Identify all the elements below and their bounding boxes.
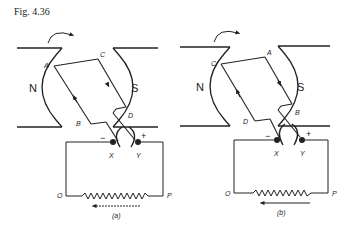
panel-b-labels: N S C A B D − + X Y O P (b) [196, 49, 337, 217]
pole-label-s: S [131, 82, 138, 94]
terminal-label-p: P [332, 190, 337, 197]
coil-label: D [128, 112, 133, 119]
north-pole [17, 48, 62, 127]
panel-caption: (b) [277, 209, 286, 217]
resistor [82, 193, 148, 199]
rotation-arrow-icon [48, 33, 72, 43]
terminal-label-p: P [167, 192, 172, 199]
panel-caption: (a) [112, 212, 121, 220]
pole-label-n: N [196, 81, 204, 93]
coil [54, 59, 135, 141]
negative-sign: − [100, 133, 105, 143]
pole-label-s: S [297, 81, 304, 93]
pole-label-n: N [29, 82, 37, 94]
external-circuit [234, 140, 328, 203]
brush-label-y: Y [136, 152, 142, 159]
positive-sign: + [141, 131, 146, 141]
north-pole [180, 47, 230, 126]
external-circuit [66, 142, 163, 206]
coil-label: A [43, 62, 49, 69]
brush-y [299, 137, 305, 143]
coil-label: C [100, 51, 106, 58]
positive-sign: + [306, 129, 311, 139]
commutator-right [129, 127, 135, 147]
brush-x [110, 139, 116, 145]
coil-label: B [295, 109, 300, 116]
coil-label: B [76, 120, 81, 127]
brush-label-y: Y [300, 150, 306, 157]
brush-x [274, 137, 280, 143]
rotation-arrow-icon [214, 31, 238, 42]
commutator-left [279, 124, 285, 145]
brush-label-x: X [273, 150, 279, 157]
coil-label: A [266, 49, 272, 56]
brush-label-x: X [108, 152, 114, 159]
commutator-right [292, 124, 298, 145]
negative-sign: − [265, 131, 270, 141]
coil [221, 57, 300, 139]
resistor [253, 190, 311, 196]
terminal-label-o: O [225, 190, 231, 197]
commutator-left [116, 127, 122, 147]
terminal-label-o: O [57, 192, 63, 199]
panel-a-labels: N S A C D B − + X Y O P (a) [29, 51, 172, 220]
panel-a [17, 33, 163, 206]
dc-generator-diagram: N S A C D B − + X Y O P (a) [0, 0, 350, 229]
coil-label: D [243, 118, 248, 125]
panel-b [180, 31, 330, 203]
